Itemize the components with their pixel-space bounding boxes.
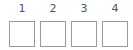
slot-label-3: 3 — [71, 2, 97, 15]
slot-label-1: 1 — [9, 2, 35, 15]
slot-input-4[interactable] — [102, 21, 128, 47]
slot-input-1[interactable] — [9, 21, 35, 47]
slot-label-2: 2 — [40, 2, 66, 15]
code-slot-1: 1 — [9, 0, 35, 48]
code-entry-group: 1 2 3 4 — [0, 0, 133, 50]
slot-label-4: 4 — [102, 2, 128, 15]
code-slot-3: 3 — [71, 0, 97, 48]
slot-input-3[interactable] — [71, 21, 97, 47]
code-slot-2: 2 — [40, 0, 66, 48]
code-slot-4: 4 — [102, 0, 128, 48]
slot-input-2[interactable] — [40, 21, 66, 47]
